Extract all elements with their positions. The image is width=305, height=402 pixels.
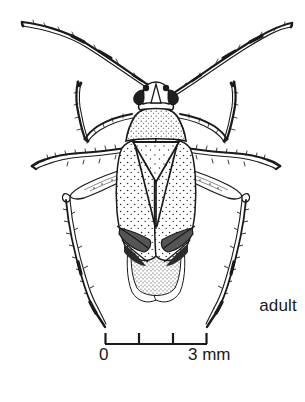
insect-illustration: [0, 0, 305, 402]
stage-label: adult: [259, 296, 297, 316]
antennal-base-left: [143, 85, 149, 91]
scale-zero-label: 0: [99, 345, 108, 365]
antennal-base-right: [163, 85, 169, 91]
scale-max-label: 3 mm: [188, 345, 231, 365]
figure-container: adult 0 3 mm: [0, 0, 305, 402]
